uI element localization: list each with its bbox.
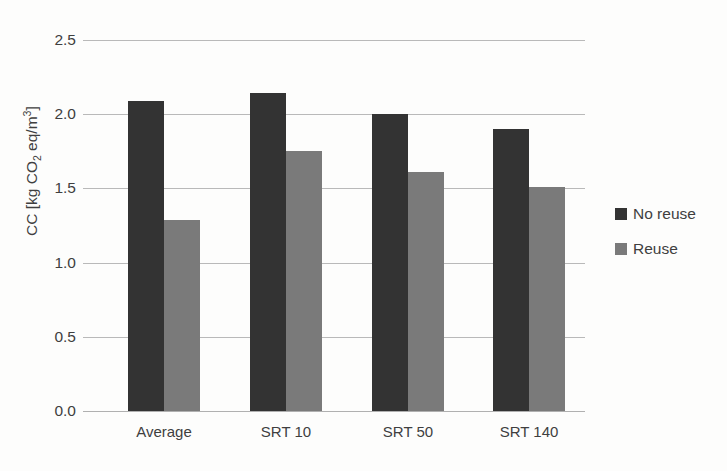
bar	[408, 172, 444, 411]
x-axis-tick-labels: AverageSRT 10SRT 50SRT 140	[83, 423, 585, 447]
y-tick-label: 1.0	[34, 255, 76, 271]
legend-swatch-icon	[615, 243, 627, 255]
bar-group	[372, 40, 444, 411]
plot-area	[83, 40, 585, 411]
legend-swatch-icon	[615, 208, 627, 220]
bar	[128, 101, 164, 411]
x-tick-label: SRT 10	[221, 423, 351, 440]
legend-label: No reuse	[633, 205, 696, 223]
x-axis-line	[83, 411, 585, 412]
chart-legend: No reuseReuse	[615, 205, 725, 275]
x-tick-label: SRT 140	[464, 423, 594, 440]
y-tick-label: 1.5	[34, 180, 76, 196]
bar-chart-figure: CC [kg CO2 eq/m3] 0.00.51.01.52.02.5 Ave…	[0, 0, 727, 471]
bar	[250, 93, 286, 411]
y-axis-tick-labels: 0.00.51.01.52.02.5	[32, 40, 76, 411]
x-tick-label: Average	[99, 423, 229, 440]
y-tick-label: 2.0	[34, 106, 76, 122]
y-tick-label: 0.5	[34, 329, 76, 345]
bar	[493, 129, 529, 411]
legend-entry[interactable]: No reuse	[615, 205, 725, 222]
legend-label: Reuse	[633, 240, 678, 258]
bar-group	[128, 40, 200, 411]
x-tick-label: SRT 50	[343, 423, 473, 440]
legend-entry[interactable]: Reuse	[615, 240, 725, 257]
bar	[529, 187, 565, 411]
bar	[372, 114, 408, 411]
bar	[286, 151, 322, 411]
y-tick-label: 0.0	[34, 403, 76, 419]
bar-group	[250, 40, 322, 411]
bar	[164, 220, 200, 411]
bar-group	[493, 40, 565, 411]
y-tick-label: 2.5	[34, 32, 76, 48]
